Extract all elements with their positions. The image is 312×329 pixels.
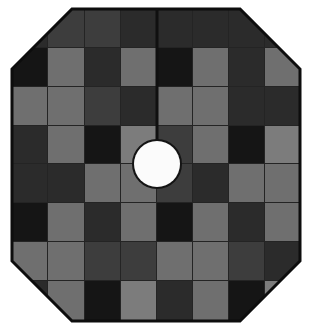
checker-cell [48, 203, 84, 241]
checker-cell [193, 242, 228, 280]
checker-cell [48, 164, 84, 202]
checker-cell [229, 203, 264, 241]
checker-cell [157, 48, 192, 86]
checker-cell [121, 281, 156, 320]
checker-cell [229, 48, 264, 86]
checker-cell [193, 203, 228, 241]
checker-cell [85, 87, 120, 125]
checker-cell [229, 126, 264, 163]
checker-cell [121, 87, 156, 125]
checker-cell [12, 87, 47, 125]
checker-cell [12, 164, 47, 202]
checker-cell [193, 87, 228, 125]
checker-cell [121, 48, 156, 86]
checker-cell [85, 203, 120, 241]
checker-cell [193, 9, 228, 47]
tree-skirt-figure [0, 0, 312, 329]
checker-cell [265, 126, 299, 163]
checker-cell [121, 242, 156, 280]
checker-cell [265, 203, 299, 241]
checker-cell [157, 281, 192, 320]
checker-cell [85, 9, 120, 47]
checker-cell [157, 9, 192, 47]
checker-cell [12, 203, 47, 241]
artwork-canvas [0, 0, 312, 329]
checker-cell [85, 164, 120, 202]
checker-cell [48, 48, 84, 86]
checker-cell [85, 281, 120, 320]
checker-cell [193, 48, 228, 86]
checker-cell [229, 87, 264, 125]
checker-cell [121, 203, 156, 241]
checker-cell [229, 164, 264, 202]
checker-cell [121, 9, 156, 47]
checker-cell [157, 87, 192, 125]
checker-cell [193, 126, 228, 163]
checker-cell [48, 87, 84, 125]
checker-cell [85, 48, 120, 86]
checker-cell [85, 126, 120, 163]
checker-cell [157, 203, 192, 241]
checker-cell [48, 126, 84, 163]
checker-cell [193, 164, 228, 202]
tree-skirt-svg [0, 0, 312, 329]
checker-cell [265, 164, 299, 202]
checker-cell [85, 242, 120, 280]
center-hole [134, 141, 180, 187]
checker-cell [229, 242, 264, 280]
checker-cell [265, 87, 299, 125]
checker-cell [12, 126, 47, 163]
checker-cell [157, 242, 192, 280]
checker-cell [193, 281, 228, 320]
checker-cell [48, 242, 84, 280]
